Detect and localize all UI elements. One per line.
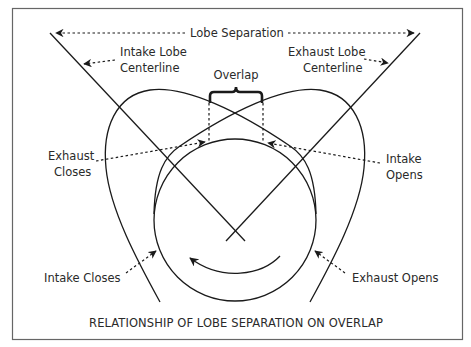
intake-opens-pointer: [268, 143, 380, 163]
label-intake-centerline-line1: Intake Lobe: [120, 45, 187, 59]
label-intake-closes: Intake Closes: [44, 271, 121, 285]
label-intake-opens-line2: Opens: [386, 168, 423, 182]
label-exhaust-opens: Exhaust Opens: [352, 271, 439, 285]
exhaust-closes-pointer: [96, 142, 205, 161]
label-exhaust-closes-line2: Closes: [54, 165, 91, 179]
base-circle: [154, 139, 316, 301]
label-exhaust-centerline-line1: Exhaust Lobe: [288, 45, 365, 59]
label-overlap: Overlap: [213, 68, 258, 82]
intake-centerline-pointer: [84, 60, 115, 64]
label-intake-opens-line1: Intake: [386, 152, 422, 166]
intake-closes-pointer: [126, 251, 156, 273]
curly-brace-icon: [210, 87, 262, 103]
intake-lobe-profile: [105, 89, 316, 302]
exhaust-centerline-pointer: [364, 59, 388, 63]
exhaust-opens-pointer: [315, 251, 345, 273]
exhaust-lobe-profile: [154, 89, 365, 302]
figure-caption: RELATIONSHIP OF LOBE SEPARATION ON OVERL…: [89, 316, 383, 330]
lobe-separation-diagram: Lobe Separation Intake Lobe Centerline E…: [0, 0, 471, 347]
label-intake-centerline-line2: Centerline: [120, 61, 179, 75]
rotation-arrow-icon: [190, 256, 280, 273]
label-exhaust-centerline-line2: Centerline: [303, 61, 362, 75]
label-exhaust-closes-line1: Exhaust: [48, 149, 95, 163]
label-lobe-separation: Lobe Separation: [190, 26, 284, 40]
